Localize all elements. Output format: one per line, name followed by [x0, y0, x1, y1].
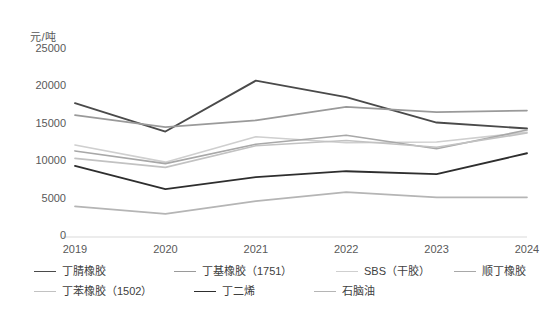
- x-axis-tick-2021: 2021: [226, 243, 286, 255]
- legend-swatch-icon: [174, 271, 196, 272]
- chart-legend: 丁腈橡胶丁基橡胶（1751）SBS（干胶）顺丁橡胶丁苯橡胶（1502）丁二烯石脑…: [34, 261, 534, 301]
- legend-swatch-icon: [314, 291, 336, 292]
- x-axis-tick-2019: 2019: [45, 243, 105, 255]
- legend-item-6[interactable]: 丁二烯: [194, 281, 314, 301]
- legend-swatch-icon: [34, 291, 56, 292]
- legend-label: 丁腈橡胶: [62, 261, 106, 281]
- x-axis-tick-2022: 2022: [316, 243, 376, 255]
- legend-item-5[interactable]: 丁苯橡胶（1502）: [34, 281, 194, 301]
- legend-label: 丁二烯: [222, 281, 255, 301]
- legend-item-1[interactable]: 丁腈橡胶: [34, 261, 174, 281]
- x-axis-tick-2020: 2020: [135, 243, 195, 255]
- legend-label: 丁基橡胶（1751）: [202, 261, 292, 281]
- legend-swatch-icon: [336, 271, 358, 272]
- y-axis-tick-25000: 25000: [18, 42, 66, 54]
- series-line-5: [75, 133, 527, 167]
- series-line-7: [75, 192, 527, 214]
- legend-item-3[interactable]: SBS（干胶）: [336, 261, 454, 281]
- x-axis-tick-2023: 2023: [407, 243, 467, 255]
- legend-item-2[interactable]: 丁基橡胶（1751）: [174, 261, 336, 281]
- legend-swatch-icon: [194, 291, 216, 292]
- y-axis-tick-10000: 10000: [18, 154, 66, 166]
- x-axis-tick-2024: 2024: [497, 243, 544, 255]
- legend-label: SBS（干胶）: [364, 261, 430, 281]
- series-line-3: [75, 132, 527, 162]
- legend-item-7[interactable]: 石脑油: [314, 281, 434, 301]
- y-axis-tick-5000: 5000: [18, 192, 66, 204]
- plot-svg: [0, 0, 538, 260]
- legend-swatch-icon: [454, 271, 476, 272]
- legend-item-4[interactable]: 顺丁橡胶: [454, 261, 534, 281]
- legend-label: 石脑油: [342, 281, 375, 301]
- series-layer: [75, 81, 527, 214]
- y-axis-tick-0: 0: [18, 229, 66, 241]
- legend-label: 顺丁橡胶: [482, 261, 526, 281]
- y-axis-tick-15000: 15000: [18, 117, 66, 129]
- plot-area: [0, 0, 538, 260]
- legend-swatch-icon: [34, 271, 56, 272]
- legend-label: 丁苯橡胶（1502）: [62, 281, 152, 301]
- y-axis-tick-20000: 20000: [18, 79, 66, 91]
